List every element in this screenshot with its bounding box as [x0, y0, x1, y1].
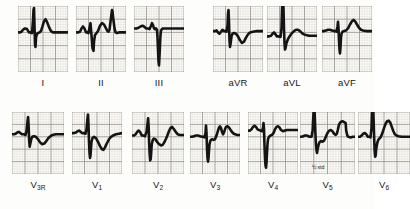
ecg-lead-panel-avl: aVL	[267, 6, 317, 92]
lead-label-ii: II	[76, 77, 126, 88]
lead-label-v3r: V3R	[12, 179, 64, 191]
ecg-lead-panel-v6: V6	[358, 112, 410, 194]
lead-label-main: II	[98, 77, 104, 88]
lead-label-avl: aVL	[267, 77, 317, 88]
lead-label-avr: aVR	[213, 77, 263, 88]
lead-label-iii: III	[134, 77, 184, 88]
ecg-strip-v5	[300, 112, 355, 174]
ecg-strip-avl	[267, 6, 317, 72]
ecg-lead-panel-v4: V4	[248, 112, 298, 194]
lead-label-v4: V4	[248, 179, 298, 191]
ecg-lead-panel-v2: V2	[132, 112, 184, 194]
ecg-strip-avr	[213, 6, 263, 72]
ecg-strip-iii	[134, 6, 184, 72]
lead-label-subscript: 3R	[37, 184, 45, 191]
ecg-strip-v6	[358, 112, 410, 174]
lead-label-i: I	[18, 77, 68, 88]
ecg-strip-v3r	[12, 112, 64, 174]
lead-label-main: aVL	[283, 77, 301, 88]
lead-label-subscript: 2	[159, 184, 163, 191]
lead-label-subscript: 6	[385, 184, 389, 191]
lead-label-v2: V2	[132, 179, 184, 191]
ecg-strip-v2	[132, 112, 184, 174]
ecg-lead-panel-avf: aVF	[322, 6, 372, 92]
ecg-strip-v4	[248, 112, 298, 174]
ecg-strip-avf	[322, 6, 372, 72]
ecg-strip-v3	[190, 112, 240, 174]
lead-label-subscript: 1	[98, 184, 102, 191]
ecg-strip-ii	[76, 6, 126, 72]
lead-label-main: aVF	[338, 77, 356, 88]
ecg-lead-panel-v3: V3	[190, 112, 240, 194]
lead-label-subscript: 5	[329, 184, 333, 191]
lead-label-main: aVR	[228, 77, 247, 88]
ecg-strip-i	[18, 6, 68, 72]
standardization-note: ½ std	[312, 164, 324, 170]
ecg-lead-panel-v3r: V3R	[12, 112, 64, 194]
ecg-lead-panel-ii: II	[76, 6, 126, 92]
ecg-lead-panel-i: I	[18, 6, 68, 92]
lead-label-v3: V3	[190, 179, 240, 191]
lead-label-v1: V1	[72, 179, 122, 191]
lead-label-v6: V6	[358, 179, 410, 191]
ecg-strip-v1	[72, 112, 122, 174]
lead-label-v5: V5	[300, 179, 355, 191]
lead-label-main: III	[155, 77, 164, 88]
ecg-lead-panel-v1: V1	[72, 112, 122, 194]
lead-label-avf: aVF	[322, 77, 372, 88]
ecg-lead-panel-iii: III	[134, 6, 184, 92]
lead-label-subscript: 4	[274, 184, 278, 191]
lead-label-subscript: 3	[216, 184, 220, 191]
lead-label-main: I	[42, 77, 45, 88]
ecg-lead-panel-v5: ½ stdV5	[300, 112, 355, 194]
ecg-lead-panel-avr: aVR	[213, 6, 263, 92]
